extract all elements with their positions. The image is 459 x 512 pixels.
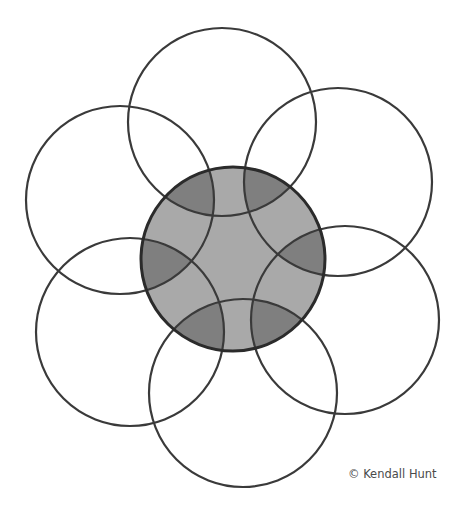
overlapping-circles-diagram <box>0 0 459 512</box>
copyright-credit: © Kendall Hunt <box>348 467 437 481</box>
